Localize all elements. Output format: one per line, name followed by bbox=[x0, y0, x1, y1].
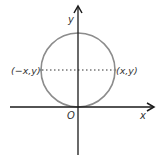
circle-symmetry-diagram: y x O (−x,y) (x,y) bbox=[0, 0, 164, 159]
origin-label: O bbox=[67, 110, 75, 121]
x-axis-label: x bbox=[139, 110, 146, 121]
point-right-label: (x,y) bbox=[116, 65, 138, 76]
y-axis-label: y bbox=[67, 14, 75, 25]
point-left-label: (−x,y) bbox=[11, 65, 41, 76]
